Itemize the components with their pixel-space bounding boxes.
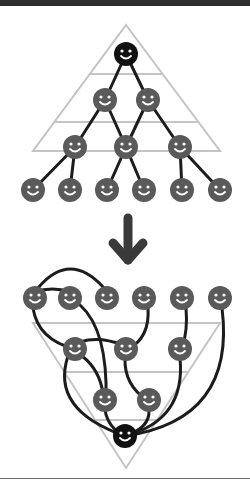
smiley-node-icon — [132, 178, 156, 202]
arrow-down-icon — [113, 218, 143, 260]
hierarchy-diagram — [21, 25, 232, 202]
smiley-node-icon — [208, 178, 232, 202]
diagram-canvas — [0, 0, 250, 493]
smiley-node-icon — [114, 337, 138, 361]
smiley-node-icon — [63, 337, 87, 361]
smiley-node-icon — [93, 88, 117, 112]
smiley-root-node-icon — [114, 42, 138, 66]
smiley-node-icon — [168, 135, 192, 159]
smiley-node-icon — [114, 135, 138, 159]
smiley-node-icon — [95, 286, 119, 310]
smiley-node-icon — [58, 286, 82, 310]
smiley-node-icon — [21, 178, 45, 202]
network-diagram — [23, 269, 232, 468]
smiley-node-icon — [208, 286, 232, 310]
smiley-node-icon — [93, 388, 117, 412]
smiley-node-icon — [95, 178, 119, 202]
smiley-node-icon — [137, 388, 161, 412]
smiley-node-icon — [136, 88, 160, 112]
smiley-root-node-icon — [113, 424, 137, 448]
smiley-node-icon — [170, 178, 194, 202]
smiley-node-icon — [132, 286, 156, 310]
smiley-node-icon — [58, 178, 82, 202]
smiley-node-icon — [63, 135, 87, 159]
smiley-node-icon — [168, 337, 192, 361]
smiley-node-icon — [170, 286, 194, 310]
network-nodes — [23, 286, 232, 448]
smiley-node-icon — [23, 286, 47, 310]
